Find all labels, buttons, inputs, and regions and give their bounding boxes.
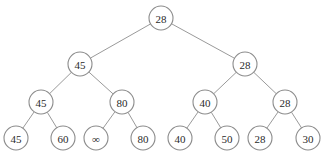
tree-node: 40	[193, 90, 217, 114]
node-label: 50	[222, 133, 234, 145]
tree-edge	[23, 112, 34, 128]
tree-edge	[103, 112, 115, 129]
node-label: ∞	[92, 133, 100, 145]
node-label: 80	[138, 133, 150, 145]
tree-edge	[214, 72, 237, 93]
tree-node: 45	[29, 90, 53, 114]
tree-node: 28	[248, 126, 272, 150]
tree-edge	[211, 112, 220, 128]
tree-node: 60	[51, 126, 75, 150]
tree-edges	[23, 24, 302, 129]
node-label: 40	[200, 97, 212, 109]
node-label: 80	[117, 97, 129, 109]
tree-node: 80	[131, 126, 155, 150]
node-label: 30	[303, 133, 315, 145]
node-label: 45	[75, 59, 87, 71]
node-label: 28	[255, 133, 267, 145]
tournament-tree-diagram: 284528458040284560∞8040502830	[0, 0, 325, 160]
node-label: 60	[58, 133, 70, 145]
node-label: 45	[11, 133, 23, 145]
tree-edge	[90, 24, 150, 58]
tree-edge	[172, 24, 235, 58]
node-label: 40	[175, 133, 187, 145]
tree-node: ∞	[84, 126, 108, 150]
tree-edge	[267, 112, 278, 128]
tree-edge	[187, 112, 198, 128]
tree-edge	[128, 112, 137, 127]
tree-node: 30	[296, 126, 320, 150]
tree-edge	[254, 72, 277, 93]
tree-node: 45	[68, 52, 92, 76]
tree-node: 45	[4, 126, 28, 150]
node-label: 45	[36, 97, 48, 109]
node-label: 28	[156, 13, 168, 25]
tree-edge	[89, 72, 113, 94]
node-label: 28	[280, 97, 292, 109]
tree-node: 28	[273, 90, 297, 114]
tree-node: 28	[149, 6, 173, 30]
tree-node: 40	[168, 126, 192, 150]
tree-node: 80	[110, 90, 134, 114]
node-label: 28	[240, 59, 252, 71]
tree-edge	[47, 112, 56, 128]
tree-edge	[50, 72, 72, 93]
tree-edge	[291, 112, 301, 128]
tree-node: 28	[233, 52, 257, 76]
tree-node: 50	[215, 126, 239, 150]
tree-nodes: 284528458040284560∞8040502830	[4, 6, 320, 150]
